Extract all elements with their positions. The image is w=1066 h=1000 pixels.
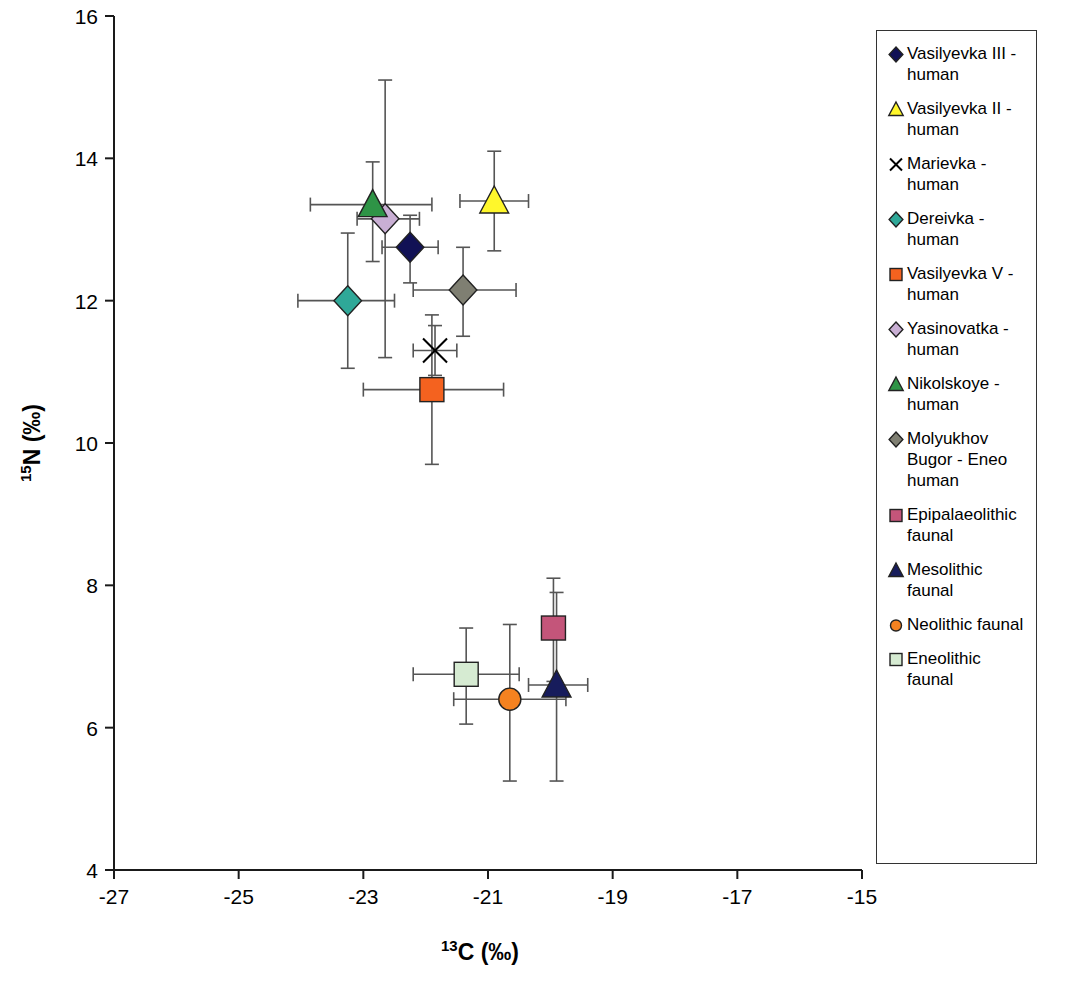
axes-layer: -27-25-23-21-19-17-1546810121416 bbox=[75, 5, 878, 908]
legend-item-label: Marievka - human bbox=[907, 153, 1030, 195]
y-tick-label: 16 bbox=[75, 5, 98, 28]
x-tick-label: -21 bbox=[473, 885, 503, 908]
data-point bbox=[499, 688, 521, 710]
legend-item-label: Dereivka - human bbox=[907, 208, 1030, 250]
cross-x-icon bbox=[885, 155, 907, 174]
legend-item-label: Nikolskoye - human bbox=[907, 373, 1030, 415]
x-tick-label: -17 bbox=[722, 885, 752, 908]
x-tick-label: -27 bbox=[99, 885, 129, 908]
y-tick-label: 4 bbox=[86, 859, 98, 882]
data-point bbox=[449, 275, 477, 305]
chart-root: -27-25-23-21-19-17-1546810121416 13C (‰)… bbox=[0, 0, 1066, 1000]
legend-item[interactable]: Epipalaeolithic faunal bbox=[885, 504, 1030, 546]
axis-lines bbox=[114, 16, 862, 870]
data-point bbox=[358, 190, 387, 217]
legend-item-label: Vasilyevka II - human bbox=[907, 98, 1030, 140]
x-axis-title: 13C (‰) bbox=[441, 937, 519, 965]
diamond-icon bbox=[885, 210, 907, 229]
data-point bbox=[480, 186, 509, 213]
legend-item[interactable]: Vasilyevka V - human bbox=[885, 263, 1030, 305]
data-point bbox=[396, 232, 424, 262]
legend-item-label: Molyukhov Bugor - Eneo human bbox=[907, 428, 1030, 491]
circle-icon bbox=[885, 616, 907, 635]
error-bars-layer bbox=[298, 80, 588, 781]
y-tick-label: 14 bbox=[75, 147, 99, 170]
legend-item[interactable]: Nikolskoye - human bbox=[885, 373, 1030, 415]
legend-item[interactable]: Eneolithic faunal bbox=[885, 648, 1030, 690]
square-icon bbox=[885, 506, 907, 525]
x-tick-label: -23 bbox=[348, 885, 378, 908]
legend-item[interactable]: Neolithic faunal bbox=[885, 614, 1030, 635]
diamond-icon bbox=[885, 430, 907, 449]
legend-item[interactable]: Mesolithic faunal bbox=[885, 559, 1030, 601]
data-point bbox=[542, 670, 571, 697]
legend-item[interactable]: Vasilyevka III - human bbox=[885, 43, 1030, 85]
data-point bbox=[454, 662, 478, 686]
legend-item-label: Vasilyevka V - human bbox=[907, 263, 1030, 305]
y-tick-label: 8 bbox=[86, 574, 98, 597]
data-point bbox=[334, 286, 362, 316]
y-tick-label: 6 bbox=[86, 717, 98, 740]
legend-item[interactable]: Molyukhov Bugor - Eneo human bbox=[885, 428, 1030, 491]
legend-item-label: Neolithic faunal bbox=[907, 614, 1023, 635]
diamond-icon bbox=[885, 320, 907, 339]
data-point bbox=[541, 616, 565, 640]
legend-item[interactable]: Vasilyevka II - human bbox=[885, 98, 1030, 140]
legend-item-label: Epipalaeolithic faunal bbox=[907, 504, 1030, 546]
y-tick-label: 10 bbox=[75, 432, 98, 455]
triangle-icon bbox=[885, 100, 907, 119]
square-icon bbox=[885, 650, 907, 669]
legend-item-label: Mesolithic faunal bbox=[907, 559, 1030, 601]
triangle-icon bbox=[885, 375, 907, 394]
data-points-layer bbox=[334, 186, 571, 710]
legend-item[interactable]: Marievka - human bbox=[885, 153, 1030, 195]
x-tick-label: -15 bbox=[847, 885, 877, 908]
triangle-icon bbox=[885, 561, 907, 580]
y-tick-label: 12 bbox=[75, 290, 98, 313]
legend-item[interactable]: Dereivka - human bbox=[885, 208, 1030, 250]
square-icon bbox=[885, 265, 907, 284]
legend-item-label: Eneolithic faunal bbox=[907, 648, 1030, 690]
diamond-icon bbox=[885, 45, 907, 64]
legend-item-label: Vasilyevka III - human bbox=[907, 43, 1030, 85]
legend-item-label: Yasinovatka - human bbox=[907, 318, 1030, 360]
legend-item[interactable]: Yasinovatka - human bbox=[885, 318, 1030, 360]
chart-legend: Vasilyevka III - humanVasilyevka II - hu… bbox=[876, 30, 1037, 864]
y-axis-title: 15N (‰) bbox=[17, 404, 45, 482]
data-point bbox=[420, 378, 444, 402]
x-tick-label: -19 bbox=[597, 885, 627, 908]
x-tick-label: -25 bbox=[223, 885, 253, 908]
